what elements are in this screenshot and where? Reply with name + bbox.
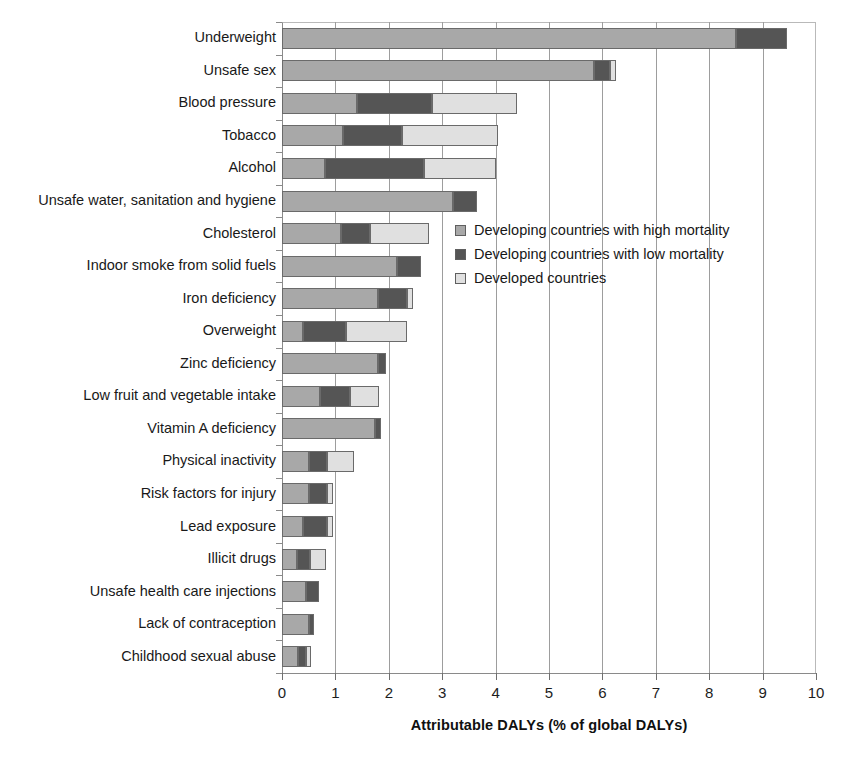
x-tick-0 [282, 673, 283, 680]
bar-segment [303, 516, 327, 537]
bar-segment [282, 386, 320, 407]
x-tick-label-9: 9 [758, 684, 766, 701]
x-tick-9 [763, 673, 764, 680]
legend-swatch-icon [455, 225, 466, 236]
bar-segment [282, 158, 325, 179]
x-tick-label-10: 10 [808, 684, 825, 701]
gridline-2 [389, 22, 390, 673]
bar-row [0, 125, 854, 146]
bar-segment [327, 451, 354, 472]
legend-label: Developed countries [474, 270, 606, 286]
bar-segment [594, 60, 610, 81]
bar-segment [309, 614, 314, 635]
bar-segment [306, 646, 311, 667]
bar-row [0, 158, 854, 179]
y-tick [276, 348, 282, 349]
bar-segment [424, 158, 496, 179]
x-tick-6 [602, 673, 603, 680]
bar-segment [282, 256, 397, 277]
y-tick [276, 413, 282, 414]
y-tick [276, 55, 282, 56]
bar-segment [282, 614, 309, 635]
bar-segment [610, 60, 615, 81]
legend-swatch-icon [455, 249, 466, 260]
bar-segment [736, 28, 787, 49]
bar-segment [282, 60, 594, 81]
y-tick [276, 87, 282, 88]
bar-segment [282, 516, 303, 537]
bar-segment [282, 549, 297, 570]
legend-item: Developed countries [455, 266, 730, 290]
bar-row [0, 60, 854, 81]
y-tick [276, 640, 282, 641]
legend-label: Developing countries with low mortality [474, 246, 724, 262]
bar-row [0, 483, 854, 504]
y-tick [276, 608, 282, 609]
legend-swatch-icon [455, 273, 466, 284]
bar-row [0, 321, 854, 342]
x-tick-4 [496, 673, 497, 680]
bar-segment [309, 451, 328, 472]
y-tick [276, 120, 282, 121]
bar-segment [370, 223, 429, 244]
y-tick [276, 478, 282, 479]
y-tick [276, 282, 282, 283]
y-tick [276, 315, 282, 316]
bar-segment [282, 451, 309, 472]
bar-segment [306, 581, 319, 602]
x-tick-label-8: 8 [705, 684, 713, 701]
x-tick-7 [656, 673, 657, 680]
x-tick-label-4: 4 [491, 684, 499, 701]
bar-row [0, 191, 854, 212]
x-axis-title: Attributable DALYs (% of global DALYs) [282, 717, 816, 733]
bar-segment [310, 549, 326, 570]
bar-segment [397, 256, 421, 277]
y-tick [276, 250, 282, 251]
bar-segment [357, 93, 432, 114]
x-tick-10 [816, 673, 817, 680]
x-tick-2 [389, 673, 390, 680]
bar-row [0, 646, 854, 667]
bar-row [0, 93, 854, 114]
bar-row [0, 549, 854, 570]
gridline-5 [549, 22, 550, 673]
x-tick-label-6: 6 [598, 684, 606, 701]
x-tick-5 [549, 673, 550, 680]
bar-segment [432, 93, 517, 114]
x-tick-label-5: 5 [545, 684, 553, 701]
bar-row [0, 581, 854, 602]
gridline-4 [496, 22, 497, 673]
bar-row [0, 288, 854, 309]
bar-segment [325, 158, 424, 179]
bar-segment [343, 125, 402, 146]
x-tick-8 [709, 673, 710, 680]
bar-row [0, 451, 854, 472]
bar-row [0, 418, 854, 439]
x-tick-label-2: 2 [385, 684, 393, 701]
bar-segment [327, 516, 332, 537]
gridline-9 [763, 22, 764, 673]
x-tick-label-7: 7 [652, 684, 660, 701]
bar-segment [375, 418, 380, 439]
bar-segment [309, 483, 328, 504]
bar-segment [282, 191, 453, 212]
gridline-1 [335, 22, 336, 673]
bar-segment [282, 288, 378, 309]
bar-row [0, 353, 854, 374]
bar-segment [327, 483, 332, 504]
y-tick [276, 152, 282, 153]
bar-segment [341, 223, 370, 244]
gridline-7 [656, 22, 657, 673]
bar-segment [282, 321, 303, 342]
x-tick-label-1: 1 [331, 684, 339, 701]
bar-segment [282, 125, 343, 146]
y-tick [276, 445, 282, 446]
y-tick [276, 185, 282, 186]
legend: Developing countries with high mortality… [455, 218, 730, 290]
bar-row [0, 28, 854, 49]
bar-segment [298, 646, 306, 667]
bar-segment [282, 353, 378, 374]
bar-segment [282, 646, 298, 667]
bar-segment [282, 581, 306, 602]
bar-segment [282, 28, 736, 49]
